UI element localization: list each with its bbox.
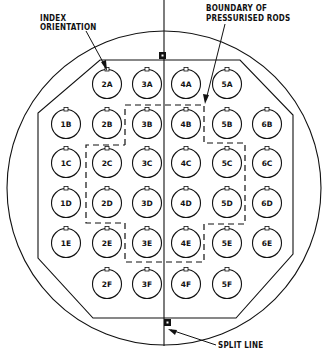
rod-label: 3D: [141, 199, 152, 208]
rod-label: 5F: [222, 280, 232, 289]
rod-3a: 3A: [133, 68, 162, 99]
rod-3e: 3E: [133, 227, 162, 258]
index-notch-icon: [265, 227, 269, 231]
rod-label: 2D: [101, 199, 112, 208]
index-notch-icon: [225, 108, 229, 112]
rod-label: 4F: [181, 280, 191, 289]
rod-3c: 3C: [133, 147, 162, 178]
rod-1c: 1C: [52, 147, 81, 178]
rod-2f: 2F: [93, 268, 122, 299]
rod-label: 2F: [102, 280, 112, 289]
rod-2e: 2E: [93, 227, 122, 258]
index-notch-icon: [145, 68, 149, 72]
index-notch-icon: [265, 147, 269, 151]
rod-4d: 4D: [172, 187, 201, 218]
rod-2c: 2C: [93, 147, 122, 178]
rod-4f: 4F: [172, 268, 201, 299]
rod-label: 4A: [180, 80, 191, 89]
index-notch-icon: [225, 268, 229, 272]
rod-label: 3C: [142, 159, 153, 168]
rod-label: 2E: [102, 239, 112, 248]
rod-4b: 4B: [172, 108, 201, 139]
index-notch-icon: [225, 147, 229, 151]
rod-5d: 5D: [213, 187, 242, 218]
rod-5f: 5F: [213, 268, 242, 299]
index-notch-icon: [145, 227, 149, 231]
rod-label: 3B: [142, 120, 153, 129]
rod-label: 1C: [61, 159, 72, 168]
rod-label: 6C: [262, 159, 273, 168]
rod-label: 6B: [262, 120, 273, 129]
index-notch-icon: [225, 227, 229, 231]
rod-label: 3E: [142, 239, 152, 248]
rod-5e: 5E: [213, 227, 242, 258]
boundary-arrowhead: [203, 94, 209, 104]
rod-1e: 1E: [52, 227, 81, 258]
rod-label: 1D: [60, 199, 71, 208]
rod-label: 5B: [222, 120, 233, 129]
rod-4e: 4E: [172, 227, 201, 258]
rod-6d: 6D: [253, 187, 282, 218]
rod-6b: 6B: [253, 108, 282, 139]
rod-5c: 5C: [213, 147, 242, 178]
index-notch-icon: [184, 68, 188, 72]
rod-label: 5A: [221, 80, 232, 89]
rod-label: 1E: [61, 239, 71, 248]
index-notch-icon: [184, 108, 188, 112]
rod-1b: 1B: [52, 108, 81, 139]
index-notch-icon: [184, 268, 188, 272]
rod-label: 5E: [222, 239, 232, 248]
index-notch-icon: [105, 187, 109, 191]
rod-6c: 6C: [253, 147, 282, 178]
rod-5a: 5A: [213, 68, 242, 99]
index-notch-icon: [184, 227, 188, 231]
rod-label: 4C: [181, 159, 192, 168]
index-orientation-leader: [86, 31, 104, 64]
split-line-label: SPLIT LINE: [218, 341, 263, 350]
index-notch-icon: [145, 108, 149, 112]
index-notch-icon: [265, 108, 269, 112]
rod-plate-outline: [38, 60, 293, 318]
index-notch-icon: [145, 147, 149, 151]
index-orientation-label-line2: ORIENTATION: [40, 23, 96, 32]
index-notch-icon: [64, 187, 68, 191]
rod-3d: 3D: [133, 187, 162, 218]
index-orientation-label-line1: INDEX: [40, 14, 66, 23]
boundary-label-line1: BOUNDARY OF: [206, 4, 267, 13]
rod-label: 2C: [102, 159, 113, 168]
rod-label: 5D: [221, 199, 232, 208]
split-line-arrowhead: [168, 329, 177, 335]
rod-label: 4B: [181, 120, 192, 129]
fuel-assembly-diagram: 2A3A4A5A1B2B3B4B5B6B1C2C3C4C5C6C1D2D3D4D…: [0, 0, 328, 350]
index-notch-icon: [105, 268, 109, 272]
index-notch-icon: [105, 147, 109, 151]
rod-label: 3F: [142, 280, 152, 289]
rod-label: 1B: [61, 120, 72, 129]
rod-label: 3A: [141, 80, 152, 89]
rod-4a: 4A: [172, 68, 201, 99]
rod-label: 6D: [261, 199, 272, 208]
rod-3f: 3F: [133, 268, 162, 299]
index-notch-icon: [184, 147, 188, 151]
rod-label: 4E: [181, 239, 191, 248]
split-marker-bottom-inner: [167, 322, 169, 324]
rod-5b: 5B: [213, 108, 242, 139]
index-notch-icon: [64, 227, 68, 231]
index-notch-icon: [64, 108, 68, 112]
index-notch-icon: [105, 227, 109, 231]
rod-label: 6E: [262, 239, 272, 248]
rod-2b: 2B: [93, 108, 122, 139]
index-notch-icon: [225, 68, 229, 72]
rod-3b: 3B: [133, 108, 162, 139]
index-notch-icon: [145, 268, 149, 272]
index-notch-icon: [184, 187, 188, 191]
rod-2d: 2D: [93, 187, 122, 218]
index-notch-icon: [225, 187, 229, 191]
rod-6e: 6E: [253, 227, 282, 258]
index-notch-icon: [105, 108, 109, 112]
rod-label: 5C: [222, 159, 233, 168]
rod-1d: 1D: [52, 187, 81, 218]
rod-2a: 2A: [93, 68, 122, 99]
index-notch-icon: [145, 187, 149, 191]
boundary-label-line2: PRESSURISED RODS: [206, 14, 290, 23]
